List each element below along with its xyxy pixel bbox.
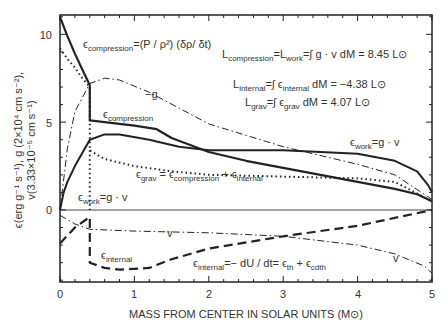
y-tick-labels: 0 5 10 [40,29,52,216]
x-tick-labels: 0 1 2 3 4 5 [57,288,435,300]
annotation-L-grav: Lgrav=∫ ϵgrav dM = 4.07 L⊙ [245,96,370,111]
label-eps-internal-def: ϵinternal=− dU / dt= ϵth + ϵcdth [193,257,326,272]
x-tick-4: 4 [355,288,361,300]
y-tick-5: 5 [46,117,52,129]
x-tick-3: 3 [280,288,286,300]
y-tick-10: 10 [40,29,52,41]
y-axis-label-line2: v(3.33×10⁻⁵ cm s⁻¹) [25,100,37,199]
y-axis-label: ϵ(erg g⁻¹ s⁻¹), g (2×10⁴ cm s⁻²), v(3.33… [12,72,37,228]
chart: 0 1 2 3 4 5 0 5 10 MASS FROM CENTER IN S… [0,0,443,323]
label-eps-compression: ϵcompression [103,108,153,123]
x-tick-0: 0 [57,288,63,300]
label-eps-work-left: ϵwork=g · v [78,191,128,206]
label-v-right: v [393,252,399,264]
y-tick-0: 0 [46,204,52,216]
x-tick-2: 2 [206,288,212,300]
x-axis-label: MASS FROM CENTER IN SOLAR UNITS (M⊙) [129,308,363,320]
annotation-compression-def: ϵcompression=(P / ρ²) (δρ/ δt) [83,38,211,53]
label-minus-g: −g [145,88,158,100]
annotation-L-compression: Lcompression=Lwork=∫ g · v dM = 8.45 L⊙ [222,48,407,63]
x-tick-1: 1 [131,288,137,300]
label-eps-grav: ϵgrav = ϵcompression + ϵinternal [136,168,263,183]
label-eps-work-right: ϵwork=g · v [350,136,400,151]
label-v-left: v [167,227,173,239]
y-axis-label-line1: ϵ(erg g⁻¹ s⁻¹), g (2×10⁴ cm s⁻²), [12,72,24,228]
label-eps-internal: ϵinternal [101,249,132,264]
x-tick-5: 5 [429,288,435,300]
annotation-L-internal: Linternal=∫ ϵinternal dM = −4.38 L⊙ [233,78,386,93]
